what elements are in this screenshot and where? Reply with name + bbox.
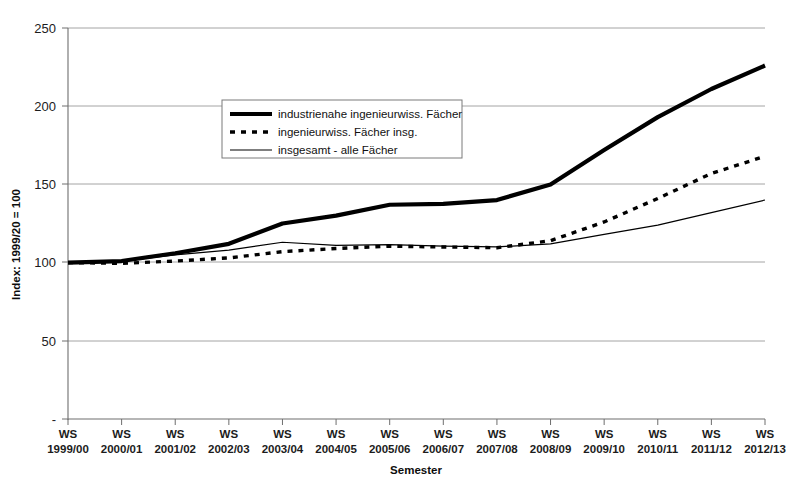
x-tick-label: WS2005/06	[369, 428, 411, 455]
x-tick-label: WS2006/07	[423, 428, 465, 455]
x-tick-label: WS2000/01	[101, 428, 143, 455]
y-tick-200: 200	[34, 99, 56, 114]
x-tick-label: WS2012/13	[744, 428, 786, 455]
y-tick-50: 50	[42, 334, 56, 349]
y-tick-250: 250	[34, 21, 56, 36]
y-axis-tick-labels: 250 200 150 100 50 -	[34, 21, 56, 427]
x-tick-label: WS2011/12	[691, 428, 732, 455]
line-chart-figure: 250 200 150 100 50 - Index: 1999/20 = 10…	[0, 0, 786, 482]
x-tick-label: WS2010/11	[637, 428, 679, 455]
x-tick-label: WS2009/10	[583, 428, 625, 455]
x-axis-tick-labels: WS1999/00WS2000/01WS2001/02WS2002/03WS20…	[47, 428, 786, 455]
x-tick-label: WS2001/02	[154, 428, 196, 455]
x-tick-label: WS1999/00	[47, 428, 89, 455]
chart-canvas: 250 200 150 100 50 - Index: 1999/20 = 10…	[0, 0, 786, 482]
legend-label-1: ingenieurwiss. Fächer insg.	[278, 126, 417, 138]
y-tick-150: 150	[34, 177, 56, 192]
chart-legend: industrienahe ingenieurwiss. Fächer inge…	[222, 100, 462, 158]
y-axis-tickmarks	[62, 28, 68, 419]
legend-label-2: insgesamt - alle Fächer	[278, 144, 398, 156]
y-axis-title: Index: 1999/20 = 100	[10, 189, 22, 300]
legend-label-0: industrienahe ingenieurwiss. Fächer	[278, 108, 462, 120]
x-axis-title: Semester	[390, 464, 442, 476]
x-tick-label: WS2003/04	[262, 428, 304, 455]
y-tick-0: -	[52, 412, 56, 427]
x-tick-label: WS2008/09	[530, 428, 572, 455]
x-tick-label: WS2004/05	[315, 428, 357, 455]
x-tick-label: WS2007/08	[476, 428, 518, 455]
x-tick-label: WS2002/03	[208, 428, 250, 455]
y-tick-100: 100	[34, 255, 56, 270]
